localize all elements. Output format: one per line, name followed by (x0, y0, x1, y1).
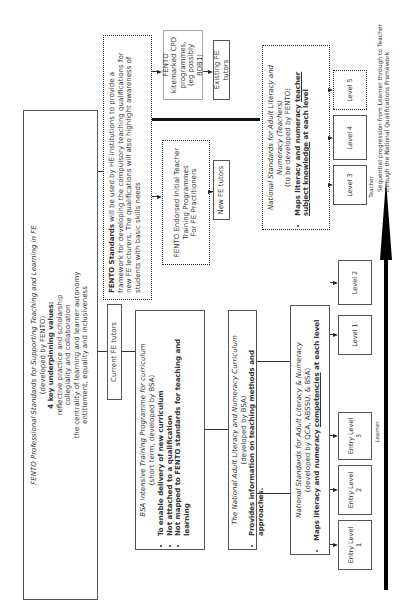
teacher-standards-title: National Standards for Adult Literacy an… (267, 49, 284, 226)
existing-fe-tutors-box: Existing FE tutors (213, 40, 230, 100)
value-item: the centrality of learning and learner a… (73, 114, 82, 596)
entry-level-2-box: Entry Level 2 (338, 465, 372, 515)
new-fe-tutors-label: New FE tutors (217, 166, 226, 215)
connector (122, 351, 135, 352)
arrow-head-icon (333, 543, 338, 547)
curriculum-box: The National Adult Literacy and Numeracy… (228, 310, 257, 550)
curriculum-bullet: Provides information on teaching methods… (248, 314, 265, 536)
endorsed-itt-line3: For FE Practitioners (190, 169, 199, 237)
teacher-standards-subtitle: (to be developed by FENTO) (284, 49, 293, 226)
connector (257, 361, 290, 362)
value-item: entitlement, equality and inclusiveness (81, 114, 90, 596)
existing-fe-tutors-label: Existing FE tutors (213, 44, 230, 96)
level-1-label: Level 1 (351, 323, 359, 346)
fento-professional-standards-box: FENTO Professional Standards for Support… (23, 110, 98, 600)
progression-caption: Sequential progression from Learner thro… (376, 2, 390, 192)
caption-line-2: through the National Qualifications Fram… (383, 2, 390, 192)
level-5-box: Level 5 (333, 70, 367, 110)
bsa-training-box: BSA Intensive Training Programme for cur… (135, 310, 205, 550)
learner-bullet-underlined: competencies (313, 372, 321, 427)
arrow-head-icon (157, 195, 162, 199)
arrow-head-icon (333, 488, 338, 492)
connector (205, 429, 228, 430)
learner-label: Learner (374, 412, 381, 452)
teacher-bullet-tail: at each level (302, 89, 310, 142)
level-4-label: Level 4 (346, 126, 354, 149)
entry-level-3-box: Entry Level 3 (338, 412, 372, 460)
entry-level-1-box: Entry Level 1 (338, 520, 372, 570)
learner-standards-title: National Standards for Adult Literacy & … (295, 309, 304, 551)
learner-bullet-tail: at each level (313, 320, 321, 373)
bsa-bullet: Not mapped to FENTO standards for teachi… (174, 314, 191, 536)
arrow-head-icon (328, 183, 333, 187)
bsa-bullet: To enable delivery of new curriculum (157, 314, 166, 536)
learner-standards-subtitle: (developed by QCA, ABSSU, & BSA) (304, 309, 313, 551)
fento-main-subtitle: (developed by FENTO) (39, 114, 48, 596)
level-3-box: Level 3 (333, 165, 367, 205)
value-item: collegiality and collaboration (64, 114, 73, 596)
caption-line-1: Sequential progression from Learner thro… (376, 2, 383, 192)
bsa-training-subtitle: (short term, developed by BSA) (148, 314, 157, 546)
arrow-head-icon (328, 88, 333, 92)
level-5-label: Level 5 (346, 78, 354, 101)
endorsed-itt-line2: Training Programmes (182, 165, 191, 239)
teacher-label: Teacher (368, 167, 375, 207)
kitemarked-cpd-line1: FENTO kitemarked CPD (162, 34, 179, 96)
entry-level-2-label: Entry Level 2 (347, 469, 363, 511)
progression-arrow-shaft (384, 260, 388, 590)
progression-arrow-head-icon (380, 180, 392, 260)
kitemarked-cpd-line3: (eg possibly BDB1) (187, 34, 204, 96)
level-2-label: Level 2 (351, 271, 359, 294)
entry-level-3-label: Entry Level 3 (347, 416, 363, 456)
connector (98, 171, 103, 172)
current-fe-tutors-label: Current FE tutors (110, 322, 119, 382)
entry-level-1-label: Entry Level 1 (347, 524, 363, 566)
teacher-standards-box: National Standards for Adult Literacy an… (262, 45, 330, 230)
learner-bullet-lead: Maps literacy and numeracy (313, 427, 321, 541)
arrow-head-icon (333, 333, 338, 337)
arrow-head-icon (157, 70, 162, 74)
curriculum-title: The National Adult Literacy and Numeracy… (231, 314, 240, 546)
bsa-training-title: BSA Intensive Training Programme for cur… (139, 314, 148, 546)
level-1-box: Level 1 (338, 315, 372, 355)
fento-main-title: FENTO Professional Standards for Support… (30, 114, 39, 596)
arrow-head-icon (208, 70, 213, 74)
new-fe-tutors-box: New FE tutors (213, 160, 230, 220)
arrow-head-icon (208, 190, 213, 194)
level-2-box: Level 2 (338, 260, 372, 305)
arrow-head-icon (333, 434, 338, 438)
arrow-head-icon (328, 136, 333, 140)
values-heading: 4 key underpinning values: (47, 114, 56, 596)
bsa-bullet: Not attached to a qualification (166, 314, 175, 536)
arrow-head-icon (333, 281, 338, 285)
diagram-canvas: FENTO Professional Standards for Support… (0, 0, 416, 602)
endorsed-itt-box: FENTO Endorsed Initial Teacher Training … (162, 140, 210, 265)
fento-standards-he-box: FENTO Standards will be used by HE insti… (103, 35, 152, 300)
kitemarked-cpd-box: FENTO kitemarked CPD programmes, (eg pos… (163, 30, 203, 100)
learner-standards-box: National Standards for Adult Literacy & … (290, 305, 330, 555)
connector (257, 493, 290, 494)
curriculum-subtitle: (developed by BSA) (240, 314, 249, 546)
teacher-bullet-lead: Maps literacy and numeracy (294, 102, 302, 216)
level-4-box: Level 4 (333, 115, 367, 160)
connector (98, 351, 107, 352)
fento-standards-lead: FENTO Standards (108, 224, 116, 293)
level-3-label: Level 3 (346, 173, 354, 196)
thick-divider-line (152, 118, 260, 121)
value-item: reflective practice and scholarship (56, 114, 65, 596)
kitemarked-cpd-line2: programmes, (179, 42, 188, 89)
endorsed-itt-line1: FENTO Endorsed Initial Teacher (173, 148, 182, 258)
current-fe-tutors-box: Current FE tutors (107, 304, 122, 400)
